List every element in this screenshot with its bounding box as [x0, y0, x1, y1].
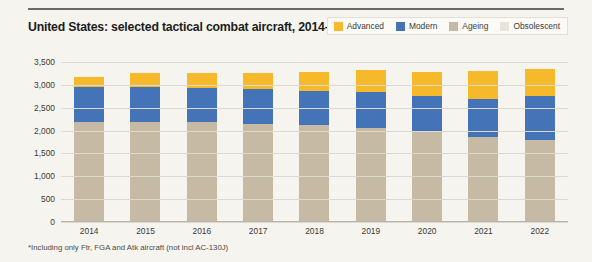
y-axis-tick-label: 0 — [50, 217, 55, 227]
bar-segment-advanced — [243, 73, 273, 89]
plot-area: 05001,0001,5002,0002,5003,0003,500 — [61, 62, 568, 222]
x-axis-tick-label: 2021 — [455, 226, 511, 236]
bar-segment-modern — [525, 96, 555, 139]
y-axis-tick-label: 3,500 — [34, 57, 55, 67]
bar-segment-ageing — [243, 124, 273, 222]
x-axis-tick-label: 2017 — [230, 226, 286, 236]
y-axis-tick-label: 3,000 — [34, 80, 55, 90]
gridline — [61, 199, 568, 200]
gridline — [61, 176, 568, 177]
bar-segment-modern — [187, 88, 217, 123]
y-axis-tick-label: 2,000 — [34, 126, 55, 136]
stacked-bar[interactable] — [74, 77, 104, 222]
modern-swatch — [396, 22, 405, 31]
bar-segment-ageing — [74, 122, 104, 222]
y-axis-tick-label: 500 — [41, 194, 55, 204]
bar-slot — [512, 62, 568, 222]
bar-segment-advanced — [299, 72, 329, 91]
gridline — [61, 108, 568, 109]
x-axis-tick-label: 2015 — [117, 226, 173, 236]
bar-slot — [343, 62, 399, 222]
gridline — [61, 62, 568, 63]
legend-label: Ageing — [462, 21, 488, 31]
bar-segment-ageing — [525, 140, 555, 222]
bar-slot — [455, 62, 511, 222]
top-divider — [28, 8, 564, 10]
bar-segment-ageing — [299, 125, 329, 222]
chart-footnote: *Including only Ftr, FGA and Atk aircraf… — [28, 243, 228, 252]
x-axis-tick-label: 2018 — [286, 226, 342, 236]
bar-slot — [117, 62, 173, 222]
x-axis-labels: 201420152016201720182019202020212022 — [61, 226, 568, 236]
legend-item-modern[interactable]: Modern — [396, 21, 437, 31]
bar-segment-modern — [356, 92, 386, 128]
bar-segment-advanced — [525, 69, 555, 96]
x-axis-tick-label: 2020 — [399, 226, 455, 236]
gridline — [61, 153, 568, 154]
bar-segment-ageing — [356, 128, 386, 222]
y-axis-tick-label: 1,000 — [34, 171, 55, 181]
bar-segment-ageing — [468, 137, 498, 222]
bar-slot — [399, 62, 455, 222]
x-axis-tick-label: 2014 — [61, 226, 117, 236]
bar-segment-modern — [74, 87, 104, 122]
y-axis-tick-label: 2,500 — [34, 103, 55, 113]
chart-header: United States: selected tactical combat … — [28, 18, 568, 44]
bar-segment-ageing — [187, 122, 217, 222]
bar-segment-modern — [243, 89, 273, 123]
legend-item-ageing[interactable]: Ageing — [449, 21, 488, 31]
bar-slot — [174, 62, 230, 222]
bar-group — [61, 62, 568, 222]
gridline — [61, 131, 568, 132]
obsolescent-swatch — [500, 22, 509, 31]
bar-segment-modern — [412, 96, 442, 131]
legend-label: Modern — [409, 21, 437, 31]
legend-label: Advanced — [347, 21, 384, 31]
legend-item-advanced[interactable]: Advanced — [334, 21, 384, 31]
legend-label: Obsolescent — [513, 21, 560, 31]
page-title: United States: selected tactical combat … — [28, 20, 345, 34]
bar-segment-modern — [130, 87, 160, 122]
ageing-swatch — [449, 22, 458, 31]
x-axis-tick-label: 2022 — [512, 226, 568, 236]
gridline — [61, 222, 568, 223]
bar-segment-advanced — [356, 70, 386, 92]
bar-segment-ageing — [130, 122, 160, 222]
y-axis-tick-label: 1,500 — [34, 148, 55, 158]
x-axis-tick-label: 2016 — [174, 226, 230, 236]
bar-slot — [230, 62, 286, 222]
gridline — [61, 85, 568, 86]
advanced-swatch — [334, 22, 343, 31]
x-axis-tick-label: 2019 — [343, 226, 399, 236]
legend-item-obsolescent[interactable]: Obsolescent — [500, 21, 560, 31]
bar-slot — [61, 62, 117, 222]
chart-legend: AdvancedModernAgeingObsolescent — [327, 17, 568, 35]
bar-slot — [286, 62, 342, 222]
